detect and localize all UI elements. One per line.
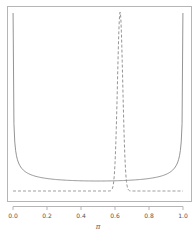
x-tick-label: 0.0: [8, 212, 18, 219]
x-tick-label: 0.8: [144, 212, 154, 219]
posterior-density-curve: [13, 12, 183, 191]
prior-density-curve: [13, 13, 183, 181]
density-chart: 0.00.20.40.60.81.0 π: [0, 0, 196, 234]
x-axis-title: π: [95, 223, 101, 231]
series-layer: [13, 12, 183, 191]
x-tick-label: 0.2: [42, 212, 52, 219]
x-tick-label: 0.4: [76, 212, 86, 219]
plot-frame: [8, 7, 192, 202]
x-axis: 0.00.20.40.60.81.0: [8, 207, 188, 220]
x-tick-label: 1.0: [178, 212, 188, 219]
x-tick-label: 0.6: [110, 212, 120, 219]
